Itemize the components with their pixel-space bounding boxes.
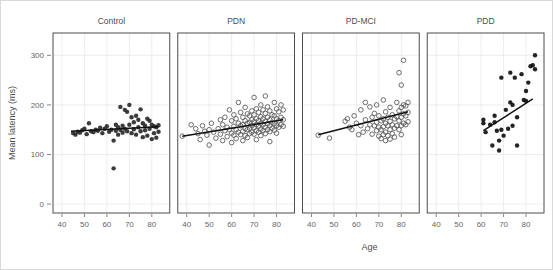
facet-panel-pd-mci: PD-MCI4050607080 (303, 16, 420, 229)
data-point (497, 148, 501, 152)
data-point (508, 70, 512, 74)
y-tick-label: 200 (31, 101, 45, 110)
x-tick-label: 60 (352, 220, 361, 229)
data-point (125, 129, 129, 133)
data-point (129, 131, 133, 135)
x-tick-label: 40 (182, 220, 191, 229)
panel-background (427, 33, 544, 213)
data-point (533, 67, 537, 71)
x-tick-label: 60 (102, 220, 111, 229)
facet-scatter-plot: Mean latency (ms)0100200300Control405060… (1, 1, 552, 269)
x-tick-label: 80 (397, 220, 406, 229)
data-point (526, 80, 530, 84)
data-point (116, 132, 120, 136)
data-point (510, 124, 514, 128)
data-point (533, 53, 537, 57)
data-point (501, 133, 505, 137)
x-tick-label: 40 (307, 220, 316, 229)
x-tick-label: 50 (205, 220, 214, 229)
chart-canvas: Mean latency (ms)0100200300Control405060… (1, 1, 553, 270)
data-point (513, 75, 517, 79)
data-point (481, 118, 485, 122)
data-point (132, 120, 136, 124)
panel-title: PD-MCI (346, 16, 376, 26)
data-point (138, 129, 142, 133)
data-point (84, 132, 88, 136)
x-tick-label: 80 (147, 220, 156, 229)
data-point (499, 75, 503, 79)
facet-panel-pdd: PDD4050607080 (427, 16, 544, 229)
data-point (150, 137, 154, 141)
x-axis-title: Age (361, 242, 377, 252)
data-point (127, 103, 131, 107)
x-tick-label: 70 (125, 220, 134, 229)
x-tick-label: 50 (80, 220, 89, 229)
data-point (531, 63, 535, 67)
panel-background (303, 33, 420, 213)
x-tick-label: 70 (374, 220, 383, 229)
facet-panel-control: Control4050607080 (53, 16, 170, 229)
data-point (118, 105, 122, 109)
data-point (145, 133, 149, 137)
y-tick-label: 100 (31, 150, 45, 159)
data-point (136, 118, 140, 122)
data-point (129, 115, 133, 119)
data-point (147, 119, 151, 123)
data-point (111, 138, 115, 142)
data-point (156, 129, 160, 133)
data-point (515, 143, 519, 147)
data-point (492, 114, 496, 118)
x-tick-label: 50 (329, 220, 338, 229)
data-point (497, 138, 501, 142)
data-point (510, 103, 514, 107)
x-tick-label: 60 (477, 220, 486, 229)
panel-title: PDN (227, 16, 245, 26)
data-point (125, 110, 129, 114)
data-point (143, 128, 147, 132)
data-point (138, 107, 142, 111)
x-tick-label: 50 (454, 220, 463, 229)
data-point (152, 131, 156, 135)
x-tick-label: 80 (272, 220, 281, 229)
chart-figure: Mean latency (ms)0100200300Control405060… (0, 0, 553, 270)
data-point (519, 72, 523, 76)
x-tick-label: 40 (432, 220, 441, 229)
data-point (504, 108, 508, 112)
x-tick-label: 40 (58, 220, 67, 229)
y-axis-title: Mean latency (ms) (7, 86, 17, 160)
data-point (127, 123, 131, 127)
facet-panel-pdn: PDN4050607080 (178, 16, 295, 229)
y-tick-label: 300 (31, 51, 45, 60)
data-point (490, 143, 494, 147)
data-point (134, 114, 138, 118)
data-point (506, 127, 510, 131)
data-point (87, 121, 91, 125)
data-point (154, 135, 158, 139)
panel-title: PDD (477, 16, 495, 26)
data-point (515, 115, 519, 119)
data-point (100, 131, 104, 135)
data-point (134, 132, 138, 136)
x-tick-label: 70 (499, 220, 508, 229)
x-tick-label: 70 (250, 220, 259, 229)
y-tick-label: 0 (40, 200, 45, 209)
data-point (105, 124, 109, 128)
x-tick-label: 80 (522, 220, 531, 229)
data-point (141, 135, 145, 139)
x-tick-label: 60 (227, 220, 236, 229)
data-point (524, 89, 528, 93)
panel-title: Control (98, 16, 126, 26)
data-point (111, 166, 115, 170)
data-point (120, 130, 124, 134)
data-point (499, 127, 503, 131)
data-point (495, 128, 499, 132)
